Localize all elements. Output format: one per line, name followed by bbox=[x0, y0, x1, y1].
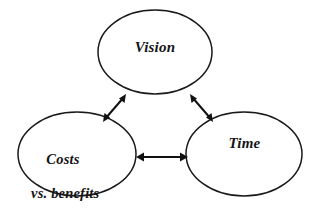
diagram-canvas: Vision Costs vs. benefits Time bbox=[0, 0, 320, 210]
node-ellipse-time[interactable] bbox=[186, 112, 302, 196]
connector-vision-time-line bbox=[192, 97, 211, 119]
connector-costs-vision-line bbox=[105, 97, 124, 119]
node-label-costs-line-2: vs. benefits bbox=[31, 185, 131, 202]
node-label-vision: Vision bbox=[98, 39, 212, 57]
connector-vision-time[interactable] bbox=[190, 94, 213, 122]
arrow-head-toward-costs-horizontal bbox=[136, 153, 144, 162]
node-label-costs-line-1: Costs bbox=[46, 151, 79, 167]
connector-costs-time[interactable] bbox=[136, 153, 188, 162]
connector-costs-vision[interactable] bbox=[103, 94, 126, 122]
node-label-costs: Costs vs. benefits bbox=[31, 134, 131, 210]
node-label-time: Time bbox=[186, 135, 303, 153]
